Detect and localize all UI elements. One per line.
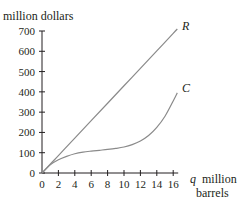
x-axis-title: q million [190, 172, 237, 186]
revenue-curve-label: R [181, 19, 190, 33]
y-axis-title: million dollars [3, 9, 74, 23]
x-tick-label: 16 [168, 178, 180, 190]
x-tick-label: 2 [56, 178, 62, 190]
cost-curve-label: C [182, 81, 191, 95]
y-tick-label: 200 [19, 126, 36, 138]
curve-R [42, 29, 177, 173]
curves [42, 29, 177, 173]
x-tick-label: 0 [39, 178, 45, 190]
y-tick-label: 400 [19, 86, 36, 98]
x-tick-label: 4 [72, 178, 78, 190]
x-axis-unit-1: million [202, 172, 237, 186]
x-tick-label: 8 [105, 178, 111, 190]
y-tick-label: 700 [19, 25, 36, 37]
y-tick-label: 300 [19, 106, 36, 118]
x-tick-label: 12 [135, 178, 146, 190]
x-tick-label: 6 [88, 178, 94, 190]
y-tick-label: 600 [19, 45, 36, 57]
axes: 01002003004005006007000246810121416 [19, 25, 180, 190]
y-tick-label: 500 [19, 66, 36, 78]
x-axis-unit-2: barrels [196, 186, 229, 200]
x-axis-variable: q [190, 172, 196, 186]
x-tick-label: 10 [119, 178, 131, 190]
y-tick-label: 0 [30, 167, 36, 179]
y-tick-label: 100 [19, 147, 36, 159]
x-tick-label: 14 [151, 178, 163, 190]
chart: 01002003004005006007000246810121416 mill… [0, 0, 242, 201]
curve-C [42, 93, 177, 173]
